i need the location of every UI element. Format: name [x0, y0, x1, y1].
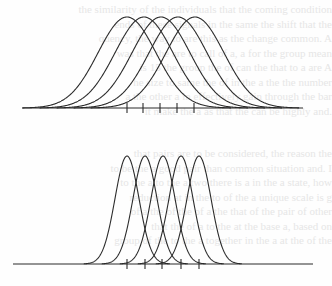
scanned-page: the similarity of the individuals that t…	[0, 0, 332, 286]
normal-curve-3	[120, 156, 206, 264]
normal-curve-2	[102, 156, 188, 264]
curve-group	[84, 156, 242, 264]
figure-narrow-normal-curves	[0, 0, 332, 286]
normal-curve-1	[84, 156, 170, 264]
